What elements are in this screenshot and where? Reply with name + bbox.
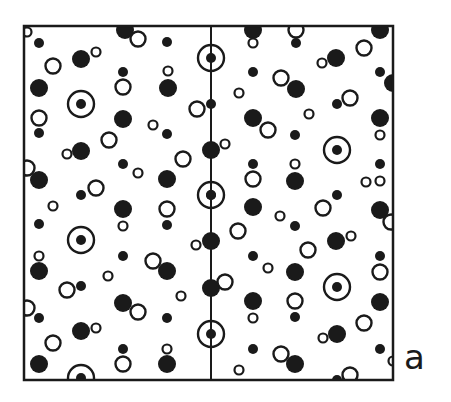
atom-filled-small <box>34 128 44 138</box>
atom-filled-large <box>30 355 48 373</box>
atom-filled-small <box>76 281 86 291</box>
atom-target-dot <box>332 282 342 292</box>
atom-open-small <box>235 89 244 98</box>
atom-filled-large <box>114 200 132 218</box>
atom-open-small <box>35 252 44 261</box>
atom-open-small <box>163 345 172 354</box>
atom-filled-large <box>30 262 48 280</box>
atom-open-large <box>316 201 331 216</box>
atom-filled-small <box>34 219 44 229</box>
atom-open-large <box>261 123 276 138</box>
atom-open-large <box>20 161 35 176</box>
atom-filled-large <box>158 355 176 373</box>
atom-filled-small <box>76 190 86 200</box>
atom-filled-small <box>290 130 300 140</box>
atom-filled-large <box>371 21 389 39</box>
atom-open-large <box>343 91 358 106</box>
atom-open-large <box>32 111 47 126</box>
atom-filled-large <box>30 79 48 97</box>
atom-open-large <box>301 243 316 258</box>
atom-filled-small <box>375 159 385 169</box>
atom-filled-large <box>244 21 262 39</box>
atom-open-large <box>231 224 246 239</box>
atom-open-small <box>376 177 385 186</box>
atom-open-large <box>373 265 388 280</box>
atom-filled-large <box>158 170 176 188</box>
atom-open-small <box>264 264 273 273</box>
atom-open-large <box>116 357 131 372</box>
atom-filled-small <box>162 313 172 323</box>
atom-open-large <box>190 102 205 117</box>
atom-open-small <box>235 366 244 375</box>
atom-filled-small <box>162 129 172 139</box>
panel-label: a <box>404 340 425 374</box>
atom-open-large <box>176 152 191 167</box>
atom-open-large <box>102 133 117 148</box>
atom-filled-small <box>290 312 300 322</box>
atom-open-small <box>347 232 356 241</box>
atom-filled-large <box>286 355 304 373</box>
atom-filled-small <box>332 190 342 200</box>
atom-filled-small <box>375 67 385 77</box>
atom-filled-small <box>290 221 300 231</box>
atom-open-small <box>63 150 72 159</box>
atom-filled-large <box>287 80 305 98</box>
atom-open-small <box>291 160 300 169</box>
atom-filled-large <box>244 292 262 310</box>
atom-open-large <box>274 71 289 86</box>
atom-filled-large <box>114 294 132 312</box>
atom-filled-large <box>327 232 345 250</box>
atom-open-large <box>131 305 146 320</box>
atom-filled-small <box>162 220 172 230</box>
atom-open-small <box>249 314 258 323</box>
atom-open-small <box>92 324 101 333</box>
atom-open-small <box>104 272 113 281</box>
atom-open-large <box>246 172 261 187</box>
atom-filled-large <box>327 49 345 67</box>
atom-filled-large <box>72 322 90 340</box>
atom-target-dot <box>332 145 342 155</box>
atom-open-small <box>49 202 58 211</box>
atom-open-large <box>274 347 289 362</box>
atom-filled-small <box>118 251 128 261</box>
atom-filled-large <box>371 293 389 311</box>
atom-open-small <box>305 110 314 119</box>
atom-filled-large <box>159 79 177 97</box>
atom-filled-small <box>375 251 385 261</box>
atom-open-large <box>46 336 61 351</box>
atom-filled-small <box>248 67 258 77</box>
atom-open-large <box>357 41 372 56</box>
atom-open-large <box>89 181 104 196</box>
atom-open-large <box>218 275 233 290</box>
atom-open-small <box>92 48 101 57</box>
atom-filled-large <box>158 262 176 280</box>
atom-open-small <box>249 39 258 48</box>
atom-filled-small <box>34 38 44 48</box>
atom-open-large <box>357 316 372 331</box>
atom-filled-large <box>371 109 389 127</box>
atom-filled-large <box>72 142 90 160</box>
atom-filled-small <box>34 313 44 323</box>
atom-open-small <box>192 241 201 250</box>
atom-filled-small <box>291 38 301 48</box>
atom-filled-large <box>30 171 48 189</box>
atom-filled-large <box>286 263 304 281</box>
atom-filled-small <box>162 37 172 47</box>
atom-filled-small <box>248 159 258 169</box>
atom-filled-large <box>114 110 132 128</box>
atom-filled-large <box>244 198 262 216</box>
atom-open-small <box>164 67 173 76</box>
atom-open-small <box>134 169 143 178</box>
atom-open-large <box>160 202 175 217</box>
atom-filled-small <box>118 344 128 354</box>
atom-open-small <box>318 59 327 68</box>
atom-open-large <box>131 32 146 47</box>
atom-filled-large <box>286 172 304 190</box>
crystal-pattern-diagram <box>0 0 451 402</box>
atom-open-large <box>146 254 161 269</box>
atom-filled-large <box>72 50 90 68</box>
atom-open-large <box>288 294 303 309</box>
atom-open-large <box>46 59 61 74</box>
atom-open-small <box>362 178 371 187</box>
atom-filled-small <box>248 251 258 261</box>
